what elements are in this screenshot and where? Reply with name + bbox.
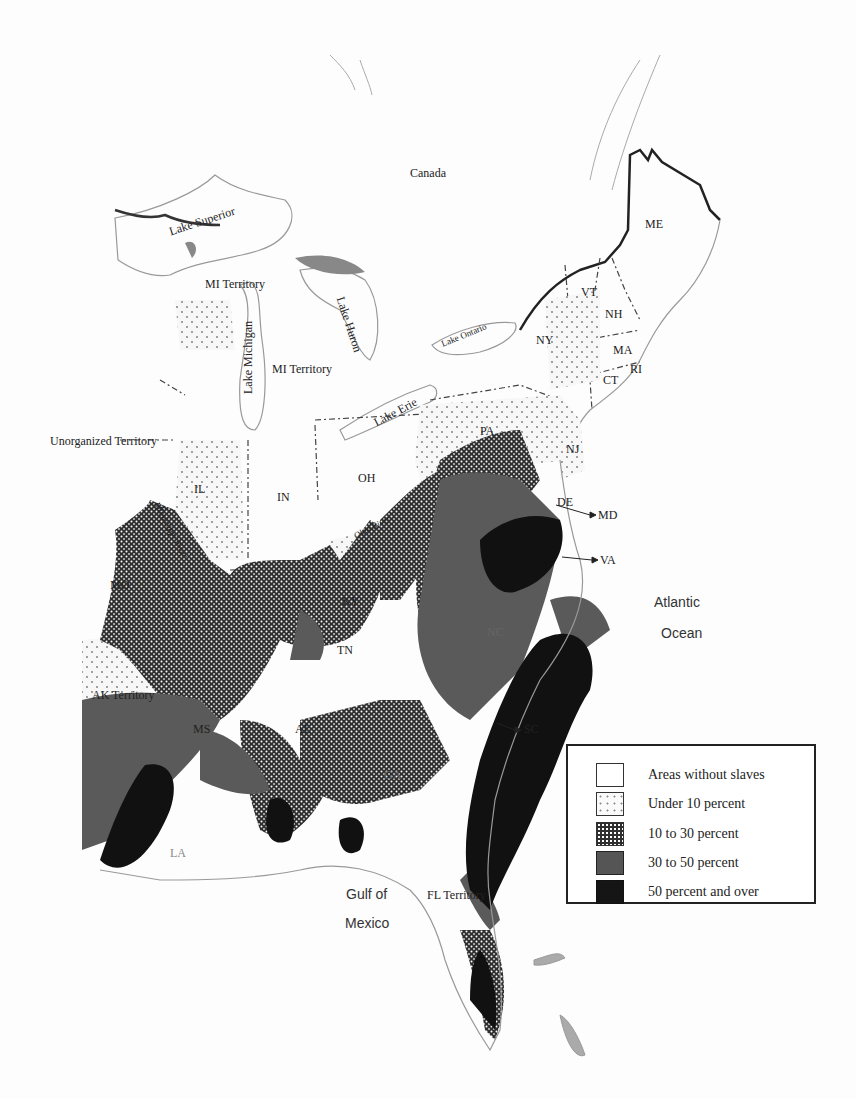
- label-vt: VT: [581, 285, 597, 300]
- great-lakes: [115, 175, 516, 440]
- legend-swatch-none: [596, 763, 624, 787]
- label-me: ME: [645, 217, 663, 232]
- label-md: MD: [598, 508, 617, 523]
- label-pa: PA: [480, 424, 494, 439]
- label-nh: NH: [605, 307, 622, 322]
- label-nj: NJ: [566, 442, 579, 457]
- legend-item-under-10: Under 10 percent: [596, 792, 745, 816]
- label-ny: NY: [536, 333, 553, 348]
- label-fl-territory: FL Territory: [427, 888, 486, 903]
- label-canada: Canada: [410, 166, 446, 181]
- label-va: VA: [600, 553, 616, 568]
- legend-swatch-10-30: [596, 822, 624, 846]
- label-ak-territory: AK Territory: [92, 688, 155, 703]
- legend-swatch-30-50: [596, 851, 624, 875]
- label-lake-michigan: Lake Michigan: [241, 321, 256, 394]
- legend-item-30-50: 30 to 50 percent: [596, 851, 739, 875]
- label-sc: SC: [524, 722, 539, 737]
- legend-swatch-50-over: [596, 880, 624, 904]
- map-legend: Areas without slaves Under 10 percent 10…: [566, 744, 816, 904]
- label-ma: MA: [613, 343, 632, 358]
- label-ms: MS: [193, 722, 210, 737]
- label-gulf-of: Gulf of: [346, 886, 387, 902]
- label-atlantic: Atlantic: [654, 594, 700, 610]
- label-ga: GA: [384, 768, 401, 783]
- label-mo: MO: [110, 578, 129, 593]
- slavery-distribution-map: [0, 0, 856, 1099]
- legend-item-10-30: 10 to 30 percent: [596, 822, 739, 846]
- legend-item-50-over: 50 percent and over: [596, 880, 759, 904]
- label-tn: TN: [337, 643, 353, 658]
- label-ocean: Ocean: [661, 625, 702, 641]
- label-la: LA: [170, 846, 186, 861]
- label-de: DE: [557, 495, 573, 510]
- label-oh: OH: [358, 471, 375, 486]
- label-al: AL: [295, 722, 311, 737]
- label-nc: NC: [487, 625, 504, 640]
- label-mexico: Mexico: [345, 915, 389, 931]
- label-ct: CT: [603, 373, 618, 388]
- label-mi-territory-north: MI Territory: [205, 277, 265, 292]
- label-ky: KY: [342, 594, 359, 609]
- label-in: IN: [277, 490, 290, 505]
- legend-swatch-under-10: [596, 792, 624, 816]
- label-mi-territory-south: MI Territory: [272, 362, 332, 377]
- legend-item-none: Areas without slaves: [596, 763, 765, 787]
- label-il: IL: [194, 482, 205, 497]
- label-ri: RI: [630, 362, 642, 377]
- label-unorganized-territory: Unorganized Territory: [50, 434, 157, 449]
